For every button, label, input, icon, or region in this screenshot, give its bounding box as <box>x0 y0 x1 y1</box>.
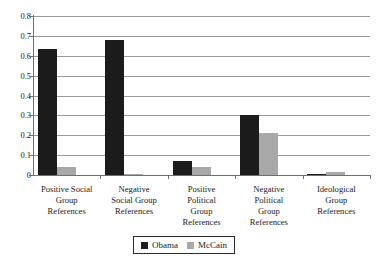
legend-swatch-icon-mccain <box>187 242 194 249</box>
y-axis-ticks: 0.80.70.60.50.40.30.20.10 <box>0 0 31 260</box>
y-axis-tick-mark <box>29 76 33 77</box>
bar-obama-3 <box>240 115 259 175</box>
x-axis-category-label: PositivePoliticalGroupReferences <box>168 184 235 228</box>
category-label-line: Group <box>33 195 100 206</box>
legend-swatch-icon-obama <box>141 242 148 249</box>
y-axis-tick-mark <box>29 96 33 97</box>
y-axis-tick-label: 0.6 <box>3 52 31 60</box>
y-axis-tick-mark <box>29 56 33 57</box>
y-axis-tick-mark <box>29 16 33 17</box>
gridline <box>33 36 370 37</box>
bar-mccain-2 <box>192 167 211 175</box>
y-axis-tick-mark <box>29 155 33 156</box>
category-label-line: Positive Social <box>33 184 100 195</box>
chart-legend: Obama McCain <box>133 236 235 254</box>
category-label-line: References <box>303 206 370 217</box>
category-label-line: Political <box>235 195 302 206</box>
x-axis-category-label: Positive SocialGroupReferences <box>33 184 100 217</box>
legend-entry-mccain: McCain <box>187 241 227 250</box>
x-axis-category-label: NegativePoliticalGroupReferences <box>235 184 302 228</box>
x-axis-tick-mark <box>370 175 371 179</box>
category-label-line: References <box>33 206 100 217</box>
category-label-line: Group <box>303 195 370 206</box>
category-label-line: Negative <box>100 184 167 195</box>
y-axis-tick-label: 0.4 <box>3 92 31 100</box>
y-axis-tick-mark <box>29 115 33 116</box>
y-axis-tick-label: 0.3 <box>3 111 31 119</box>
legend-entry-obama: Obama <box>141 241 178 250</box>
y-axis-tick-label: 0.2 <box>3 131 31 139</box>
y-axis-tick-mark <box>29 36 33 37</box>
y-axis-tick-label: 0.8 <box>3 12 31 20</box>
gridline <box>33 115 370 116</box>
x-axis-category-label: NegativeSocial GroupReferences <box>100 184 167 217</box>
bar-obama-4 <box>307 174 326 175</box>
y-axis-tick-label: 0 <box>3 171 31 179</box>
category-label-line: References <box>168 217 235 228</box>
bar-mccain-3 <box>259 133 278 175</box>
bar-obama-0 <box>38 49 57 175</box>
category-label-line: References <box>100 206 167 217</box>
y-axis-tick-label: 0.7 <box>3 32 31 40</box>
y-axis-tick-mark <box>29 135 33 136</box>
gridline <box>33 16 370 17</box>
category-label-line: Ideological <box>303 184 370 195</box>
category-label-line: Positive <box>168 184 235 195</box>
category-label-line: References <box>235 217 302 228</box>
bar-obama-1 <box>105 40 124 175</box>
x-axis-line <box>33 175 371 176</box>
x-axis-category-label: IdeologicalGroupReferences <box>303 184 370 217</box>
gridline <box>33 56 370 57</box>
y-axis-line <box>33 15 34 176</box>
legend-label-mccain: McCain <box>198 241 227 250</box>
plot-area <box>33 16 370 175</box>
gridline <box>33 135 370 136</box>
category-label-line: Group <box>168 206 235 217</box>
x-axis-tick-mark <box>168 175 169 179</box>
gridline <box>33 76 370 77</box>
y-axis-tick-mark <box>29 175 33 176</box>
y-axis-tick-label: 0.5 <box>3 72 31 80</box>
category-label-line: Group <box>235 206 302 217</box>
y-axis-tick-label: 0.1 <box>3 151 31 159</box>
x-axis-tick-mark <box>100 175 101 179</box>
bar-mccain-0 <box>57 167 76 175</box>
gridline <box>33 155 370 156</box>
gridline <box>33 96 370 97</box>
x-axis-tick-mark <box>303 175 304 179</box>
bar-mccain-4 <box>326 172 345 175</box>
x-axis-tick-mark <box>235 175 236 179</box>
bar-chart-figure: 0.80.70.60.50.40.30.20.10 Positive Socia… <box>0 0 382 260</box>
category-label-line: Political <box>168 195 235 206</box>
category-label-line: Social Group <box>100 195 167 206</box>
bar-mccain-1 <box>124 174 143 175</box>
bar-obama-2 <box>173 161 192 175</box>
category-label-line: Negative <box>235 184 302 195</box>
legend-label-obama: Obama <box>152 241 178 250</box>
